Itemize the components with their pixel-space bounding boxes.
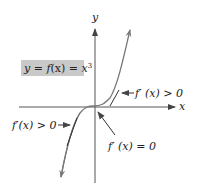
x-axis-label: x [179, 100, 186, 113]
tangent-upper [110, 90, 119, 106]
y-axis-label: y [91, 11, 99, 24]
label-exponent: 3 [88, 62, 92, 70]
label-eq2: = [65, 62, 81, 75]
tangent-lower [67, 118, 77, 146]
pointer-origin [98, 112, 115, 135]
label-paren-x: (x) [51, 62, 66, 75]
annotation-lower-left: f′(x) > 0 [11, 119, 57, 132]
label-eq1: = [30, 62, 46, 75]
svg-text:y = f(x) = x3: y = f(x) = x3 [23, 62, 92, 75]
cubic-function-diagram: y = f(x) = x3 x y f′ (x) > 0 f′(x) > 0 f… [0, 0, 197, 190]
annotation-origin: f′ (x) = 0 [107, 140, 156, 153]
function-label-box: y = f(x) = x3 [21, 60, 92, 76]
annotation-upper-right: f′ (x) > 0 [134, 87, 183, 100]
